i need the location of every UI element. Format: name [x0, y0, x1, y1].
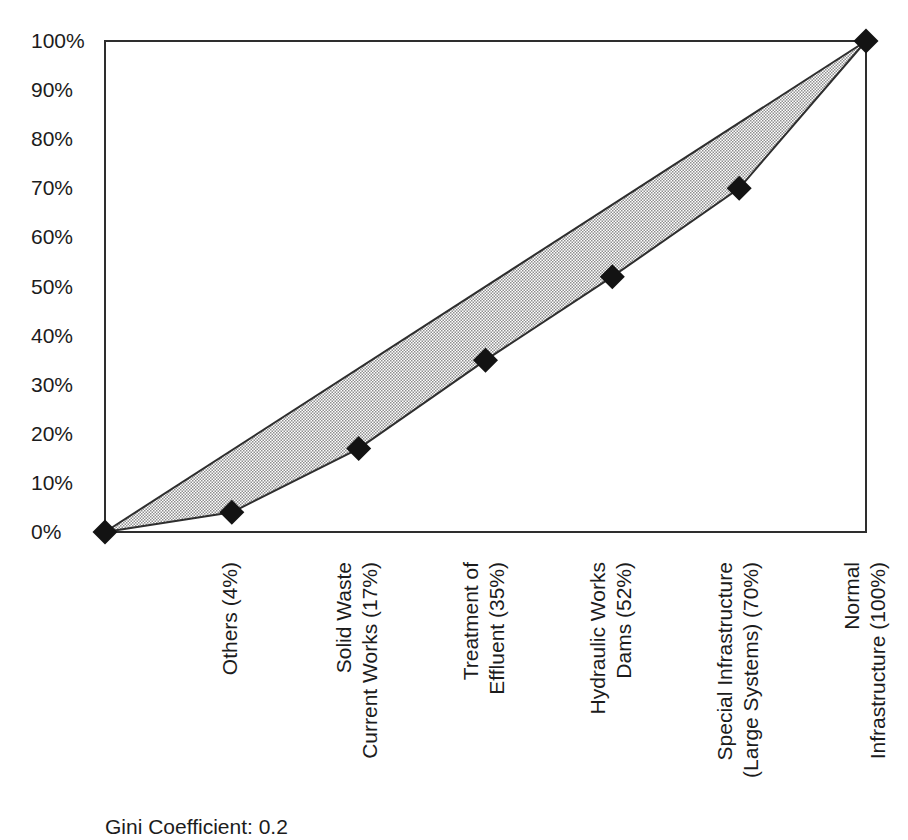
x-axis-category-label: Dams (52%): [612, 562, 635, 679]
x-axis-category-label: Current Works (17%): [358, 562, 381, 759]
y-axis-tick-label: 90%: [31, 78, 73, 101]
y-axis-tick-label: 30%: [31, 373, 73, 396]
y-axis-tick-label: 20%: [31, 422, 73, 445]
x-axis-category-label: Normal: [840, 562, 863, 630]
x-axis-category-label: (Large Systems) (70%): [739, 562, 762, 778]
y-axis-tick-label: 10%: [31, 471, 73, 494]
y-axis-tick-label: 60%: [31, 225, 73, 248]
x-axis-category-label: Special Infrastructure: [713, 562, 736, 760]
x-axis-category-label: Infrastructure (100%): [866, 562, 889, 759]
line-of-equality: [105, 41, 866, 532]
x-axis-category-label: Others (4%): [218, 562, 241, 675]
x-axis-category-label: Treatment of: [459, 562, 482, 680]
y-axis-tick-label: 80%: [31, 127, 73, 150]
lorenz-curve-figure: Gini Coefficient: 0.2 0%10%20%30%40%50%6…: [0, 0, 908, 840]
y-axis-tick-label: 70%: [31, 176, 73, 199]
y-axis-tick-label: 0%: [31, 520, 61, 543]
x-axis-category-label: Effluent (35%): [485, 562, 508, 695]
lorenz-curve-chart: Gini Coefficient: 0.2 0%10%20%30%40%50%6…: [0, 0, 908, 840]
y-axis-tick-label: 50%: [31, 275, 73, 298]
x-axis-category-label: Hydraulic Works: [586, 562, 609, 714]
x-axis-category-label: Solid Waste: [332, 562, 355, 673]
y-axis-tick-label: 40%: [31, 324, 73, 347]
gini-coefficient-annotation: Gini Coefficient: 0.2: [105, 815, 288, 838]
diamond-marker: [93, 520, 118, 545]
y-axis-tick-label: 100%: [31, 29, 85, 52]
